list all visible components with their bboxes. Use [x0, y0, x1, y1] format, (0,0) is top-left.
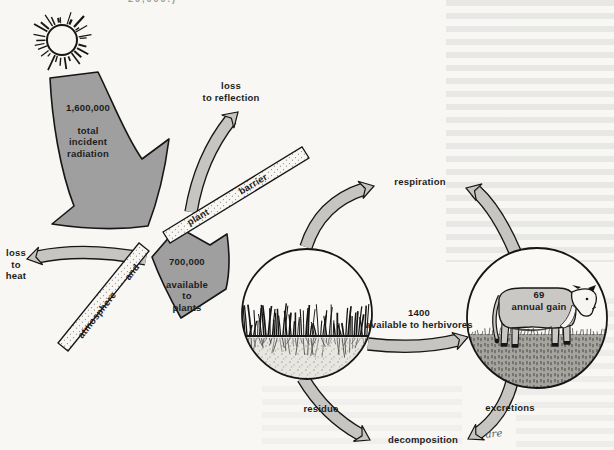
available-to-plants-label: 700,000 available to plants — [166, 244, 208, 325]
herbivore-circle — [465, 248, 609, 390]
cropped-caption: 20,000.) — [128, 0, 238, 6]
available-to-plants-text: available to plants — [166, 279, 208, 314]
incident-radiation-label: 1,600,000 total incident radiation — [66, 90, 110, 171]
sun-icon — [34, 12, 92, 70]
incident-radiation-value: 1,600,000 — [66, 102, 110, 114]
loss-to-heat-label: loss to heat — [6, 247, 26, 282]
herbivores-arrow — [368, 333, 468, 350]
cropped-caption-text: 20,000.) — [128, 0, 238, 4]
excretions-label: excretions — [485, 402, 535, 414]
handwritten-annotation: are — [485, 427, 503, 441]
annual-gain-value: 69 — [512, 289, 567, 301]
respiration-arrow-right — [466, 184, 515, 252]
available-to-plants-value: 700,000 — [166, 256, 208, 268]
incident-radiation-text: total incident radiation — [66, 125, 110, 160]
respiration-arrow-left — [306, 181, 374, 247]
plant-barrier-bar — [163, 147, 309, 243]
decomposition-label: decomposition — [388, 434, 458, 446]
herbivores-transfer-text: available to herbivores — [365, 319, 473, 331]
loss-to-reflection-label: loss to reflection — [203, 80, 260, 103]
producers-circle — [240, 249, 374, 382]
herbivores-transfer-label: 1400 available to herbivores — [365, 307, 473, 330]
herbivores-transfer-value: 1400 — [365, 307, 473, 319]
residue-label: residue — [303, 403, 338, 415]
figure-energy-flow-diagram: 20,000.) — [0, 0, 614, 450]
annual-gain-text: annual gain — [512, 301, 567, 313]
annual-gain-label: 69 annual gain — [512, 289, 567, 312]
respiration-label: respiration — [394, 176, 445, 188]
